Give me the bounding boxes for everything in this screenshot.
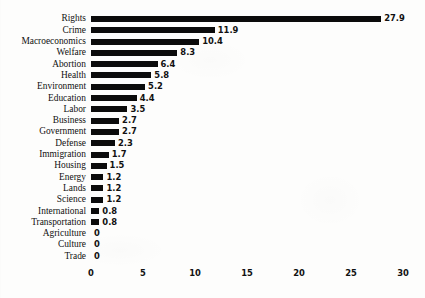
category-label: Immigration	[0, 149, 86, 160]
bar	[91, 95, 137, 101]
category-label: Culture	[0, 239, 86, 250]
bar-row: Education4.4	[0, 93, 425, 104]
bar-row: Welfare8.3	[0, 47, 425, 58]
bar-row: International0.8	[0, 206, 425, 217]
x-axis-tick-label: 15	[241, 268, 253, 278]
bar-value-label: 1.7	[112, 149, 127, 160]
bar-row: Defense2.3	[0, 138, 425, 149]
category-label: Science	[0, 194, 86, 205]
bar-row: Macroeconomics10.4	[0, 36, 425, 47]
bar-value-label: 1.5	[110, 160, 125, 171]
bar-value-label: 0.8	[102, 217, 117, 228]
bar	[91, 163, 107, 169]
bar-value-label: 10.4	[202, 36, 223, 47]
category-label: Environment	[0, 81, 86, 92]
bar-value-label: 11.9	[218, 25, 239, 36]
bar	[91, 50, 177, 56]
bar-value-label: 4.4	[140, 93, 155, 104]
bar-row: Health5.8	[0, 70, 425, 81]
bar	[91, 16, 381, 22]
bar-row: Environment5.2	[0, 81, 425, 92]
bar	[91, 106, 127, 112]
bar-row: Trade0	[0, 251, 425, 262]
category-label: Welfare	[0, 47, 86, 58]
bar-value-label: 0	[94, 228, 100, 239]
bar-value-label: 27.9	[384, 13, 405, 24]
bar-row: Transportation0.8	[0, 217, 425, 228]
bar	[91, 72, 151, 78]
bar-value-label: 3.5	[130, 104, 145, 115]
category-label: Government	[0, 126, 86, 137]
category-label: Business	[0, 115, 86, 126]
bar	[91, 84, 145, 90]
bar-value-label: 1.2	[106, 183, 121, 194]
bar-row: Immigration1.7	[0, 149, 425, 160]
bar-value-label: 5.8	[154, 70, 169, 81]
bar	[91, 39, 199, 45]
category-label: Crime	[0, 25, 86, 36]
x-axis-tick-label: 25	[345, 268, 357, 278]
bar	[91, 152, 109, 158]
x-axis: 051015202530	[0, 268, 425, 292]
category-label: International	[0, 206, 86, 217]
bar-row: Culture0	[0, 239, 425, 250]
category-label: Housing	[0, 160, 86, 171]
category-label: Energy	[0, 172, 86, 183]
bar-row: Business2.7	[0, 115, 425, 126]
bar-row: Agriculture0	[0, 228, 425, 239]
category-label: Trade	[0, 251, 86, 262]
category-label: Transportation	[0, 217, 86, 228]
bar	[91, 118, 119, 124]
bar	[91, 208, 99, 214]
bar-row: Abortion6.4	[0, 59, 425, 70]
category-label: Education	[0, 93, 86, 104]
bar-chart: Rights27.9Crime11.9Macroeconomics10.4Wel…	[0, 0, 425, 298]
bar-value-label: 8.3	[180, 47, 195, 58]
bar-row: Rights27.9	[0, 13, 425, 24]
bar-value-label: 1.2	[106, 172, 121, 183]
category-label: Health	[0, 70, 86, 81]
bar	[91, 129, 119, 135]
bar-value-label: 1.2	[106, 194, 121, 205]
bar-row: Crime11.9	[0, 25, 425, 36]
bar-row: Lands1.2	[0, 183, 425, 194]
bar	[91, 185, 103, 191]
bar	[91, 140, 115, 146]
bar-value-label: 2.3	[118, 138, 133, 149]
bar-row: Government2.7	[0, 126, 425, 137]
x-axis-tick-label: 30	[397, 268, 409, 278]
bar-value-label: 6.4	[161, 59, 176, 70]
bar	[91, 61, 158, 67]
bar-value-label: 5.2	[148, 81, 163, 92]
bar-value-label: 0.8	[102, 206, 117, 217]
bar	[91, 174, 103, 180]
category-label: Rights	[0, 13, 86, 24]
x-axis-tick-label: 10	[189, 268, 201, 278]
bar	[91, 27, 215, 33]
plot-area: Rights27.9Crime11.9Macroeconomics10.4Wel…	[0, 0, 425, 298]
category-label: Lands	[0, 183, 86, 194]
bar-row: Energy1.2	[0, 172, 425, 183]
bar-value-label: 2.7	[122, 115, 137, 126]
category-label: Labor	[0, 104, 86, 115]
bar-row: Housing1.5	[0, 160, 425, 171]
bar-value-label: 0	[94, 251, 100, 262]
bar	[91, 197, 103, 203]
bar-row: Science1.2	[0, 194, 425, 205]
bar-value-label: 0	[94, 239, 100, 250]
bar-value-label: 2.7	[122, 126, 137, 137]
category-label: Macroeconomics	[0, 36, 86, 47]
x-axis-tick-label: 20	[293, 268, 305, 278]
category-label: Abortion	[0, 59, 86, 70]
category-label: Agriculture	[0, 228, 86, 239]
category-label: Defense	[0, 138, 86, 149]
bar	[91, 219, 99, 225]
bar-row: Labor3.5	[0, 104, 425, 115]
x-axis-tick-label: 5	[140, 268, 146, 278]
x-axis-tick-label: 0	[88, 268, 94, 278]
